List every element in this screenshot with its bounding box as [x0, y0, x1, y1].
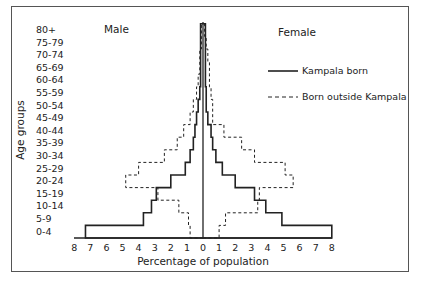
age-group-label: 50-54 — [36, 100, 64, 111]
x-tick-label: 5 — [280, 242, 286, 253]
x-tick-label: 5 — [119, 242, 125, 253]
x-tick-label: 1 — [184, 242, 190, 253]
x-tick-label: 6 — [103, 242, 109, 253]
female-label: Female — [278, 26, 316, 38]
x-tick-label: 6 — [297, 242, 303, 253]
y-axis-title: Age groups — [14, 100, 26, 160]
age-group-label: 75-79 — [36, 37, 64, 48]
age-group-label: 25-29 — [36, 163, 64, 174]
legend: Kampala born Born outside Kampala — [268, 65, 407, 102]
x-tick-label: 3 — [152, 242, 158, 253]
age-group-label: 0-4 — [36, 226, 52, 237]
age-group-label: 65-69 — [36, 62, 64, 73]
x-tick-label: 4 — [264, 242, 270, 253]
age-group-label: 15-19 — [36, 188, 64, 199]
x-tick-label: 3 — [248, 242, 254, 253]
age-group-label: 40-44 — [36, 125, 64, 136]
female-born-outside-kampala-line — [203, 24, 293, 238]
male-label: Male — [104, 23, 129, 35]
age-group-label: 45-49 — [36, 112, 64, 123]
x-tick-label: 8 — [329, 242, 335, 253]
age-group-labels: 0-45-910-1415-1920-2425-2930-3435-3940-4… — [36, 24, 64, 237]
male-kampala-born-line — [85, 24, 203, 238]
legend-label-kampala-born: Kampala born — [302, 65, 368, 76]
age-group-label: 30-34 — [36, 150, 64, 161]
x-tick-label: 2 — [232, 242, 238, 253]
male-born-outside-kampala-line — [126, 24, 203, 238]
x-axis-title: Percentage of population — [137, 255, 269, 267]
x-tick-label: 0 — [200, 242, 206, 253]
x-tick-label: 4 — [136, 242, 142, 253]
age-group-label: 10-14 — [36, 200, 64, 211]
age-group-label: 70-74 — [36, 49, 64, 60]
age-group-label: 20-24 — [36, 175, 64, 186]
age-group-label: 60-64 — [36, 74, 64, 85]
age-group-label: 55-59 — [36, 87, 64, 98]
legend-label-born-outside: Born outside Kampala — [302, 91, 407, 102]
x-tick-label: 8 — [71, 242, 77, 253]
x-axis-ticks: 87654321012345678 — [71, 242, 335, 253]
x-tick-label: 1 — [216, 242, 222, 253]
x-tick-label: 7 — [87, 242, 93, 253]
age-group-label: 5-9 — [36, 213, 52, 224]
age-group-label: 35-39 — [36, 137, 64, 148]
age-group-label: 80+ — [36, 24, 56, 35]
population-pyramid-chart: 0-45-910-1415-1920-2425-2930-3435-3940-4… — [0, 0, 421, 284]
female-kampala-born-line — [203, 24, 332, 238]
x-tick-label: 2 — [168, 242, 174, 253]
x-tick-label: 7 — [313, 242, 319, 253]
chart-series — [85, 24, 331, 238]
